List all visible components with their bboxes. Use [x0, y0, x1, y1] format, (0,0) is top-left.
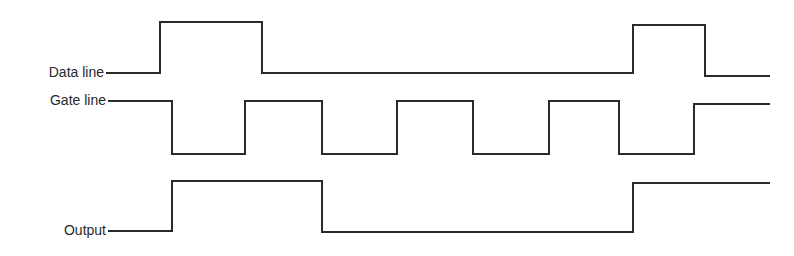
timing-waveforms [0, 0, 794, 256]
output-waveform [108, 181, 770, 232]
data-line-waveform [106, 22, 770, 76]
gate-line-waveform [108, 101, 770, 154]
